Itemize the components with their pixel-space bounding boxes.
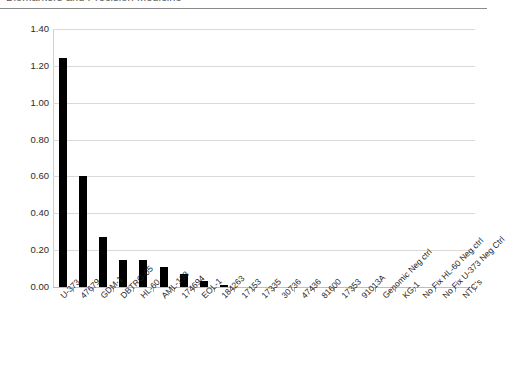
y-tick-label: 0.80: [3, 135, 49, 145]
page-header: Biomarkers and Precision Medicine: [0, 0, 487, 11]
bar: [59, 58, 67, 287]
bar: [99, 237, 107, 287]
y-axis-tick-labels: 1.401.201.000.800.600.400.200.00: [0, 29, 49, 287]
y-tick-label: 0.00: [3, 282, 49, 292]
bar-chart-figure: 1.401.201.000.800.600.400.200.00 U-37347…: [0, 11, 487, 374]
y-tick-label: 1.00: [3, 98, 49, 108]
bar-series: [53, 29, 475, 287]
page-header-title: Biomarkers and Precision Medicine: [6, 0, 182, 3]
y-tick-label: 0.40: [3, 208, 49, 218]
y-tick-label: 1.40: [3, 24, 49, 34]
y-tick-label: 0.60: [3, 171, 49, 181]
header-divider: [0, 8, 487, 9]
y-tick-label: 1.20: [3, 61, 49, 71]
x-axis-tick-labels: U-37347679GDM-1DBTRG-05HL-60AML-19317469…: [53, 294, 487, 374]
y-tick-label: 0.20: [3, 245, 49, 255]
bar: [79, 176, 87, 287]
